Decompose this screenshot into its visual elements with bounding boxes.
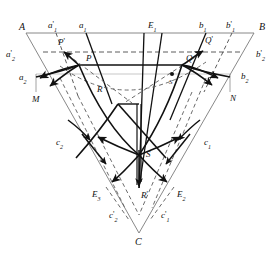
label-b1-prime: b'1 [226,21,235,32]
ray-E1 [139,33,162,188]
label-c2-prime: c'2 [109,211,117,222]
label-a2-prime: a'2 [6,50,15,61]
label-Q: Q [186,54,193,63]
label-a1-prime: a'1 [48,21,57,32]
arrow-S-downleft [112,155,139,182]
label-Q-prime: Q' [205,36,213,45]
label-b1: b1 [199,21,207,32]
diagram-canvas [0,0,279,257]
label-E3: E3 [92,190,101,201]
label-b2: b2 [241,72,249,83]
label-c1: c1 [204,138,211,149]
tick-arc-c2 [68,120,90,140]
arrow-S-upleft [98,137,139,155]
label-E1: E1 [148,21,157,32]
outer-triangle [26,33,254,233]
label-P-prime: P' [58,38,65,47]
label-c2: c2 [56,138,63,149]
diagram-root: A a'1 a1 E1 b1 b'1 B P' Q' a'2 b'2 P Q a… [0,0,279,257]
label-S: S [146,150,151,159]
label-E2: E2 [177,190,186,201]
label-c1-prime: c'1 [161,211,169,222]
label-S-marker: S [169,79,173,86]
label-b2-prime: b'2 [256,50,265,61]
label-a1: a1 [79,21,87,32]
label-R-prime: R' [141,191,148,200]
tick-arc-c1 [178,120,200,140]
dashed-left-long-2 [78,96,139,215]
label-a2: a2 [19,73,27,84]
label-B: B [259,22,265,32]
label-A: A [19,22,25,32]
label-M: M [32,95,40,104]
label-N: N [230,94,236,103]
point-S-marker [170,72,174,76]
label-C: C [135,237,142,247]
label-R: R [97,85,103,94]
label-P: P [86,54,92,63]
segment-BC [139,33,254,233]
